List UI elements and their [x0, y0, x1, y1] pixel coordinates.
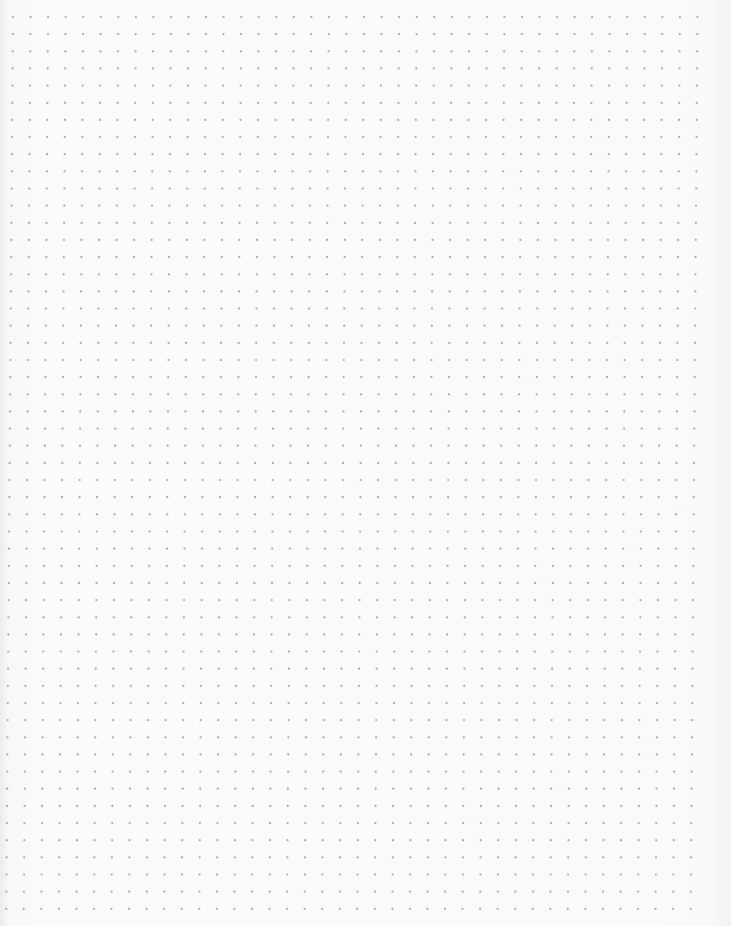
dot-grid [0, 0, 731, 926]
dot-grid-page [0, 0, 731, 926]
page-edge-shadow [709, 0, 731, 926]
